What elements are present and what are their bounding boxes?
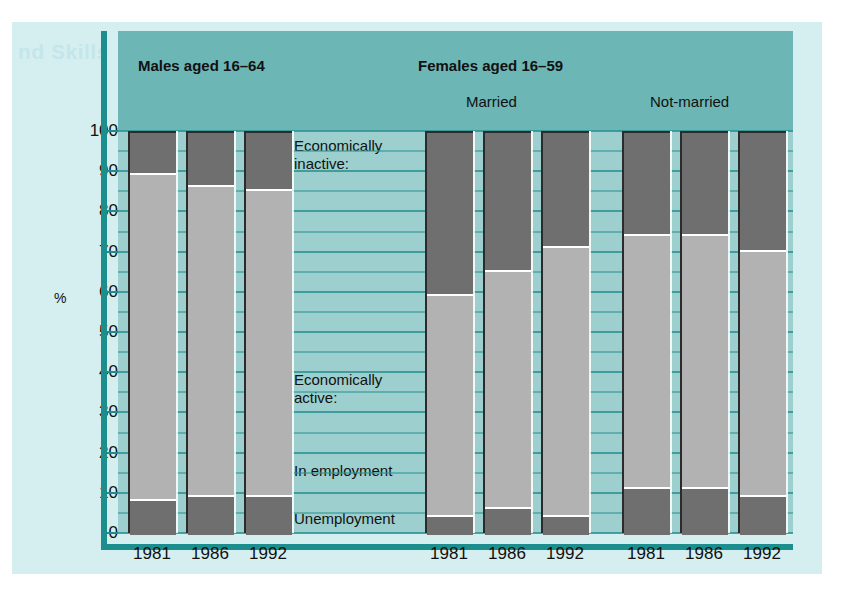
segment-unemployment: [682, 487, 728, 535]
segment-unemployment: [485, 507, 531, 535]
bar-1992-2: [244, 131, 292, 533]
y-axis-label: %: [54, 290, 66, 306]
segment-in-employment: [130, 173, 176, 499]
bar-1986-7: [680, 131, 728, 533]
segment-in-employment: [682, 234, 728, 487]
plot-area: Economically inactive: Economically acti…: [118, 131, 793, 533]
segment-economically-inactive: [624, 133, 670, 234]
segment-in-employment: [246, 189, 292, 495]
segment-economically-inactive: [130, 133, 176, 173]
x-label-3: 1981: [421, 544, 477, 564]
segment-economically-inactive: [740, 133, 786, 250]
segment-unemployment: [246, 495, 292, 535]
bar-1981-6: [622, 131, 670, 533]
x-label-5: 1992: [537, 544, 593, 564]
x-label-2: 1992: [240, 544, 296, 564]
legend-economically-active: Economically active:: [294, 371, 382, 407]
x-label-1: 1986: [182, 544, 238, 564]
x-axis-labels: 198119861992198119861992198119861992: [118, 540, 793, 574]
group-subtitle-married: Married: [466, 93, 517, 110]
segment-economically-inactive: [543, 133, 589, 246]
segment-economically-inactive: [682, 133, 728, 234]
y-tickmark-70: [107, 251, 118, 253]
segment-unemployment: [624, 487, 670, 535]
segment-in-employment: [624, 234, 670, 487]
y-tickmark-10: [107, 492, 118, 494]
group-title-females: Females aged 16–59: [418, 57, 563, 74]
bar-1981-3: [425, 131, 473, 533]
bar-1986-4: [483, 131, 531, 533]
segment-unemployment: [427, 515, 473, 535]
segment-unemployment: [740, 495, 786, 535]
segment-economically-inactive: [485, 133, 531, 270]
y-tickmark-40: [107, 371, 118, 373]
y-tickmark-20: [107, 452, 118, 454]
segment-in-employment: [427, 294, 473, 515]
figure-page: nd Skills % 1009080706050403020100 Males…: [0, 0, 857, 602]
y-tickmark-100: [107, 130, 118, 132]
legend-economically-inactive: Economically inactive:: [294, 137, 382, 173]
header-band: Males aged 16–64 Females aged 16–59 Marr…: [118, 31, 793, 131]
segment-unemployment: [543, 515, 589, 535]
x-label-6: 1981: [618, 544, 674, 564]
y-tickmark-60: [107, 291, 118, 293]
y-tickmark-80: [107, 210, 118, 212]
bar-1992-8: [738, 131, 786, 533]
y-tickmark-0: [107, 532, 118, 534]
group-subtitle-not-married: Not-married: [650, 93, 729, 110]
y-tickmark-90: [107, 170, 118, 172]
segment-in-employment: [485, 270, 531, 507]
x-label-7: 1986: [676, 544, 732, 564]
segment-in-employment: [188, 185, 234, 495]
x-label-8: 1992: [734, 544, 790, 564]
axis-rule-left: [101, 31, 107, 550]
y-tickmark-30: [107, 411, 118, 413]
x-label-0: 1981: [124, 544, 180, 564]
segment-economically-inactive: [188, 133, 234, 185]
segment-economically-inactive: [246, 133, 292, 189]
x-label-4: 1986: [479, 544, 535, 564]
bar-1992-5: [541, 131, 589, 533]
group-title-males: Males aged 16–64: [138, 57, 265, 74]
legend-active-line1: Economically: [294, 371, 382, 388]
y-tickmark-50: [107, 331, 118, 333]
segment-economically-inactive: [427, 133, 473, 294]
bar-1986-1: [186, 131, 234, 533]
segment-unemployment: [188, 495, 234, 535]
bar-1981-0: [128, 131, 176, 533]
segment-unemployment: [130, 499, 176, 535]
segment-in-employment: [543, 246, 589, 515]
segment-in-employment: [740, 250, 786, 495]
